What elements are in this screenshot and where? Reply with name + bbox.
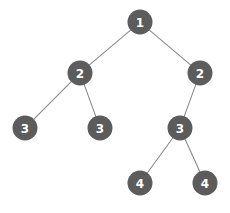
tree-edge [146,136,174,174]
tree-edge [184,83,197,118]
tree-node-circle[interactable] [188,61,213,86]
tree-edge [148,29,192,66]
edge-layer [32,29,200,175]
tree-edge [184,138,200,174]
tree-node[interactable]: 4 [193,171,218,196]
tree-node-circle[interactable] [193,171,218,196]
tree-edge [88,29,132,66]
tree-edge [32,80,72,120]
tree-node-circle[interactable] [13,116,38,141]
tree-node[interactable]: 3 [13,116,38,141]
tree-node[interactable]: 2 [68,61,93,86]
binary-tree-figure: 12233344 [0,0,230,213]
tree-node[interactable]: 3 [168,116,193,141]
tree-node-circle[interactable] [168,116,193,141]
node-layer: 12233344 [13,10,218,196]
tree-node-circle[interactable] [128,171,153,196]
tree-node-circle[interactable] [68,61,93,86]
binary-tree-canvas: 12233344 [0,0,230,213]
tree-node[interactable]: 1 [128,10,153,35]
tree-edge [84,83,97,118]
tree-node[interactable]: 2 [188,61,213,86]
tree-node[interactable]: 4 [128,171,153,196]
tree-node-circle[interactable] [88,116,113,141]
tree-node[interactable]: 3 [88,116,113,141]
tree-node-circle[interactable] [128,10,153,35]
